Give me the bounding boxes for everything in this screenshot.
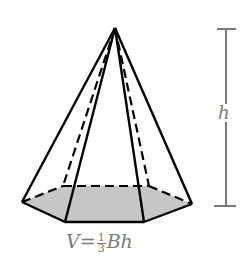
formula-rhs: Bh [107,230,133,252]
volume-formula: V=13Bh [66,232,133,254]
height-label: h [218,104,230,122]
fraction-denominator: 3 [97,244,106,254]
pyramid-base [22,186,192,222]
formula-lhs: V [66,230,80,252]
formula-fraction: 13 [97,233,106,254]
formula-equals: = [80,230,96,252]
pyramid-diagram [0,0,248,268]
